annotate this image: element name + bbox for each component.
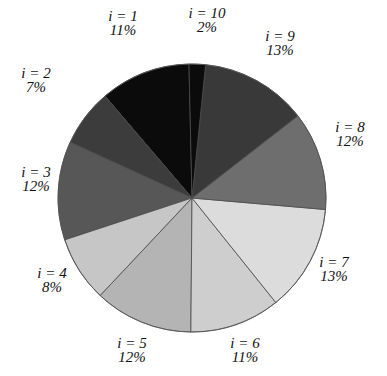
slice-percent: 8%: [42, 279, 62, 295]
pie-chart: i = 111%i = 27%i = 312%i = 48%i = 512%i …: [0, 0, 387, 376]
slice-percent: 13%: [320, 268, 348, 284]
slice-percent: 7%: [26, 79, 46, 95]
pie-slices: [58, 64, 326, 332]
slice-percent: 2%: [197, 19, 217, 35]
slice-percent: 11%: [232, 349, 258, 365]
slice-percent: 12%: [336, 133, 364, 149]
slice-percent: 13%: [266, 42, 294, 58]
slice-percent: 11%: [110, 22, 136, 38]
slice-percent: 12%: [22, 178, 50, 194]
slice-percent: 12%: [118, 349, 146, 365]
